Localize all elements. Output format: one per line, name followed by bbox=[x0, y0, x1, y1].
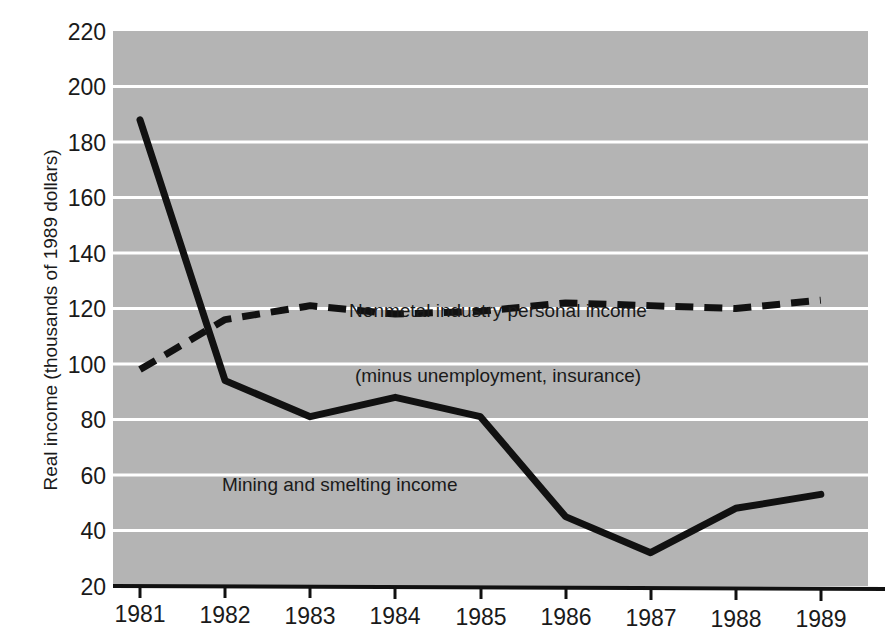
line-chart-figure: Real income (thousands of 1989 dollars) … bbox=[0, 0, 885, 640]
x-tick-label-1988: 1988 bbox=[691, 608, 781, 631]
series-label-mining-and-smelting: Mining and smelting income bbox=[222, 430, 502, 539]
x-tick-label-1989: 1989 bbox=[776, 608, 866, 631]
x-tick-label-1986: 1986 bbox=[521, 606, 611, 629]
x-tick-label-1983: 1983 bbox=[265, 605, 355, 628]
series-label-mining-line1: Mining and smelting income bbox=[222, 474, 502, 496]
x-tick-label-1985: 1985 bbox=[436, 606, 526, 629]
x-tick-label-1982: 1982 bbox=[180, 604, 270, 627]
series-label-nonmetal-line2: (minus unemployment, insurance) bbox=[333, 365, 663, 387]
x-tick-label-1987: 1987 bbox=[606, 607, 696, 630]
series-label-nonmetal-industry: Nonmetal industry personal income (minus… bbox=[333, 256, 663, 431]
series-label-nonmetal-line1: Nonmetal industry personal income bbox=[333, 300, 663, 322]
x-tick-label-1981: 1981 bbox=[95, 603, 185, 626]
x-tick-label-1984: 1984 bbox=[350, 605, 440, 628]
